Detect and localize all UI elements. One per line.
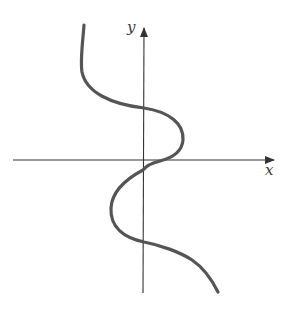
graph-canvas — [0, 0, 295, 309]
coordinate-graph: y x — [0, 0, 295, 309]
y-axis-label: y — [127, 20, 135, 35]
y-axis — [143, 28, 144, 293]
curve — [81, 25, 218, 292]
x-axis-label: x — [265, 163, 273, 178]
